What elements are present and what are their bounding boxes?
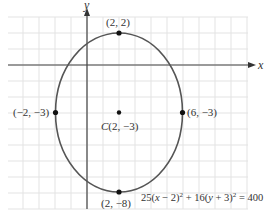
x-axis-label: x: [257, 58, 264, 72]
x-axis: x: [8, 58, 264, 72]
equation: 25(x − 2)2 + 16(y + 3)2 = 400: [141, 191, 263, 204]
point-right: [180, 110, 185, 115]
eq-part: + 16(: [183, 192, 209, 204]
ellipse-diagram: x y (2, 2) (2, −8) (−2, −3) (6, −3) C(2,…: [0, 0, 268, 216]
eq-part: − 2): [160, 192, 180, 204]
point-bottom: [116, 189, 121, 194]
label-bottom: (2, −8): [101, 197, 131, 210]
eq-part: 25(: [141, 192, 156, 204]
label-top: (2, 2): [106, 16, 130, 29]
eq-part: + 3): [213, 192, 233, 204]
point-center: [117, 110, 121, 114]
label-center: C(2, −3): [101, 120, 139, 133]
y-axis-label: y: [83, 0, 90, 12]
label-left: (−2, −3): [13, 106, 50, 119]
y-axis: y: [83, 0, 90, 209]
x-axis-arrow-icon: [248, 62, 256, 68]
label-right: (6, −3): [187, 106, 217, 119]
point-left: [53, 110, 58, 115]
center-coords: (2, −3): [108, 120, 138, 133]
point-top: [116, 30, 121, 35]
eq-part: = 400: [236, 192, 263, 203]
